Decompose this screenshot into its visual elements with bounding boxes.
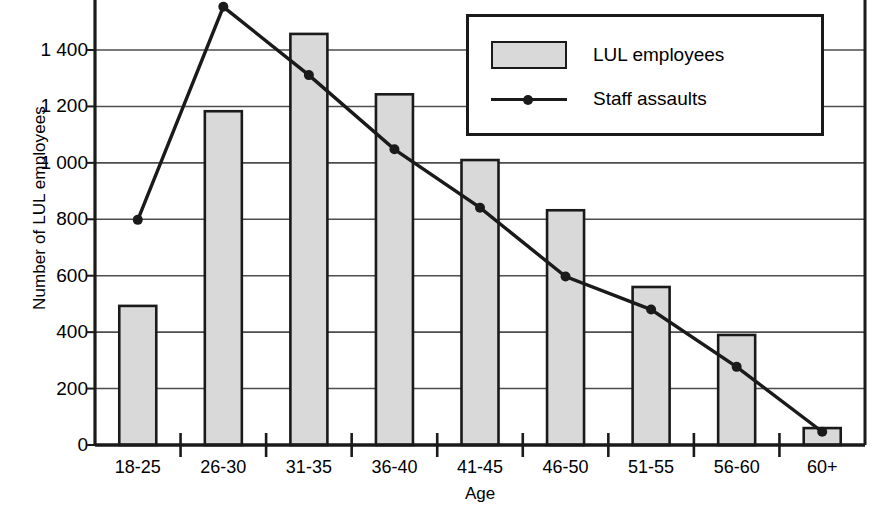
bar (205, 111, 242, 445)
legend-bar-swatch-icon (491, 41, 567, 69)
line-data-point (646, 305, 656, 315)
line-data-point (817, 427, 827, 437)
legend: LUL employees Staff assaults (466, 14, 824, 136)
line-data-point (475, 203, 485, 213)
line-data-point (389, 144, 399, 154)
line-data-point (304, 70, 314, 80)
legend-line-marker-icon (523, 95, 533, 105)
legend-item-staff-assaults: Staff assaults (469, 79, 821, 119)
line-data-point (218, 2, 228, 12)
bar (547, 210, 584, 445)
line-data-point (732, 362, 742, 372)
bar (119, 306, 156, 445)
bar (290, 34, 327, 445)
line-data-point (133, 215, 143, 225)
legend-line-swatch-icon (491, 85, 567, 113)
chart-container: Number of LUL employees Age 020040060080… (0, 0, 875, 511)
legend-item-label: Staff assaults (593, 88, 707, 110)
bar (718, 335, 755, 445)
line-data-point (561, 272, 571, 282)
legend-item-lul-employees: LUL employees (469, 35, 821, 75)
legend-item-label: LUL employees (593, 44, 724, 66)
